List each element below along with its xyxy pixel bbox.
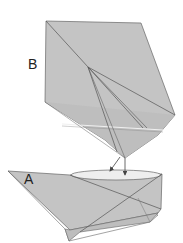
arrow-left xyxy=(110,157,120,171)
label-b: B xyxy=(28,56,37,72)
label-a: A xyxy=(24,171,33,187)
fold-diagram xyxy=(0,0,183,243)
piece-b xyxy=(45,21,175,158)
